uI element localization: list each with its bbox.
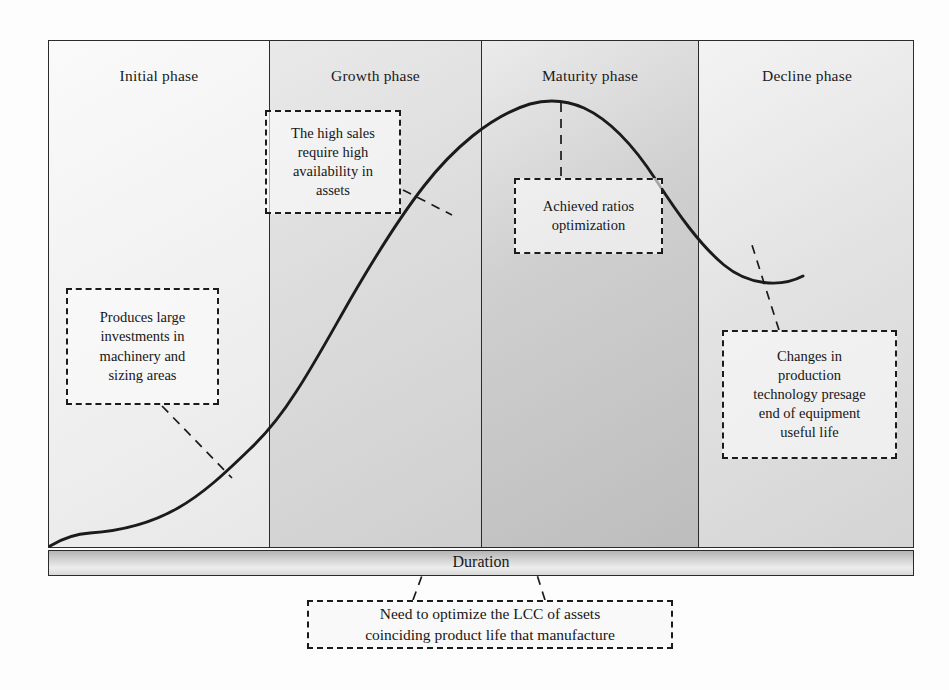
phase-panel-maturity: Maturity phase (481, 41, 698, 547)
callout-initial-phase: Produces large investments in machinery … (66, 288, 219, 405)
phase-label-initial: Initial phase (49, 67, 269, 85)
duration-axis-label: Duration (49, 553, 913, 571)
phase-label-decline: Decline phase (699, 67, 914, 85)
phase-label-growth: Growth phase (270, 67, 481, 85)
phase-panel-decline: Decline phase (698, 41, 914, 547)
callout-decline-phase: Changes in production technology presage… (722, 330, 897, 459)
duration-axis-bar: Duration (48, 550, 914, 576)
life-cycle-diagram: Initial phase Growth phase Maturity phas… (0, 0, 949, 690)
callout-growth-phase: The high sales require high availability… (265, 110, 401, 214)
phase-label-maturity: Maturity phase (482, 67, 698, 85)
callout-duration-lcc: Need to optimize the LCC of assets coinc… (307, 600, 673, 649)
callout-maturity-phase: Achieved ratios optimization (514, 178, 663, 254)
